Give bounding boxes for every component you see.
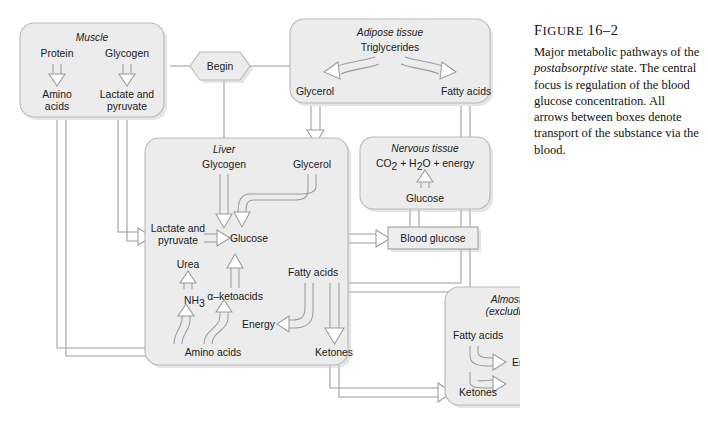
box-nervous-tissue[interactable]: Nervous tissue CO2 + H2O + energy Glucos…: [360, 137, 493, 212]
blood-glucose-label: Blood glucose: [400, 233, 465, 244]
box-blood-glucose[interactable]: Blood glucose: [388, 227, 481, 252]
adipose-node-fatty-acids: Fatty acids: [441, 86, 491, 97]
liver-node-lactate-line2: pyruvate: [158, 235, 198, 246]
connector-liver-ketones-inner: [339, 365, 440, 397]
muscle-node-glycogen: Glycogen: [105, 48, 149, 59]
tissues-node-fatty-acids: Fatty acids: [453, 330, 503, 341]
figure-caption-text: Major metabolic pathways of the postabso…: [534, 44, 700, 158]
muscle-node-protein: Protein: [41, 48, 74, 59]
muscle-node-lactate-line2: pyruvate: [107, 101, 147, 112]
liver-box-body: [145, 138, 348, 365]
nervous-title: Nervous tissue: [391, 143, 459, 154]
figure-container: Muscle Protein Glycogen Amino acids Lact…: [0, 0, 708, 423]
liver-node-alpha-ketoacids: α–ketoacids: [207, 291, 263, 302]
begin-label: Begin: [207, 61, 234, 72]
begin-node[interactable]: Begin: [190, 52, 253, 83]
adipose-node-triglycerides: Triglycerides: [361, 42, 420, 53]
liver-node-amino-acids: Amino acids: [185, 347, 242, 358]
adipose-title: Adipose tissue: [356, 27, 424, 38]
figure-label: FIGURE 16–2: [534, 22, 700, 39]
box-muscle[interactable]: Muscle Protein Glycogen Amino acids Lact…: [20, 23, 167, 120]
figure-label-word: IGURE: [543, 24, 584, 38]
muscle-node-amino-line2: acids: [45, 101, 69, 112]
liver-node-ketones: Ketones: [315, 347, 353, 358]
connector-muscle-lactate-outer: [118, 120, 140, 232]
liver-node-glucose: Glucose: [230, 233, 268, 244]
tissues-title-line1: Almost all tissues: [490, 294, 520, 305]
box-liver[interactable]: Liver Glycogen Glycerol Lactate and pyru…: [145, 138, 353, 368]
liver-node-energy: Energy: [242, 319, 276, 330]
connector-liver-ketones-outer: [330, 365, 440, 388]
figure-label-initial: F: [534, 22, 543, 38]
connector-muscle-lactate-inner: [127, 120, 140, 241]
liver-title: Liver: [213, 144, 236, 155]
caption-part-2: state. The central focus is regulation o…: [534, 61, 699, 156]
figure-caption: FIGURE 16–2 Major metabolic pathways of …: [534, 22, 700, 158]
box-almost-all-tissues[interactable]: Almost all tissues (excluding nervous) F…: [445, 287, 520, 408]
tissues-title-line2: (excluding nervous): [486, 306, 520, 317]
box-adipose[interactable]: Adipose tissue Triglycerides Glycerol Fa…: [290, 19, 493, 106]
liver-node-lactate-line1: Lactate and: [151, 223, 206, 234]
nervous-node-glucose: Glucose: [406, 193, 444, 204]
adipose-node-glycerol: Glycerol: [296, 86, 334, 97]
liver-node-glycogen: Glycogen: [202, 159, 246, 170]
muscle-node-amino-line1: Amino: [42, 89, 72, 100]
caption-part-1: Major metabolic pathways of the: [534, 45, 699, 59]
figure-number: 16–2: [588, 22, 619, 38]
caption-italic-term: postabsorptive: [534, 61, 608, 75]
liver-node-urea: Urea: [177, 259, 200, 270]
liver-node-fatty-acids: Fatty acids: [288, 267, 338, 278]
liver-node-glycerol: Glycerol: [293, 159, 331, 170]
tissues-node-ketones: Ketones: [459, 387, 497, 398]
muscle-node-lactate-line1: Lactate and: [100, 89, 155, 100]
muscle-title: Muscle: [76, 32, 109, 43]
metabolic-pathway-diagram: Muscle Protein Glycogen Amino acids Lact…: [0, 0, 520, 423]
